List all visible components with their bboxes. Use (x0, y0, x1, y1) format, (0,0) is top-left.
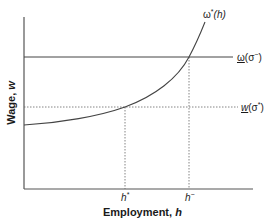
lower-line-label: w(σ*) (241, 101, 264, 113)
tick-hminus: h− (185, 191, 195, 203)
curve-label: ω*(h) (203, 8, 226, 20)
tick-hstar: h* (121, 191, 130, 203)
diagram-canvas: ω*(h) ω(σ−) w(σ*) h* h− Employment, h Wa… (0, 0, 274, 223)
upper-line-label: ω(σ−) (237, 51, 262, 63)
omega-star-curve (24, 22, 205, 125)
y-axis-title: Wage, w (5, 80, 17, 125)
x-axis-title: Employment, h (103, 206, 182, 218)
